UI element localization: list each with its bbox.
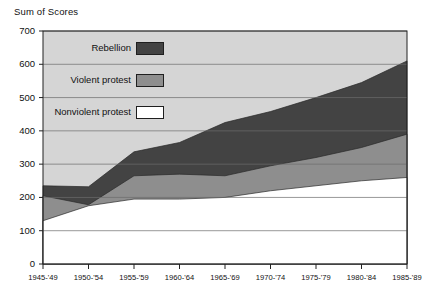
area-chart: Sum of Scores 0100200300400500600700 194… (0, 0, 425, 302)
y-axis-tick-label: 500 (5, 92, 35, 103)
legend-item[interactable]: Rebellion (0, 41, 131, 57)
x-axis-tick-label: 1960-'64 (165, 273, 194, 282)
legend-swatch (136, 106, 164, 119)
legend-swatch (136, 74, 164, 87)
y-axis-tick-label: 300 (5, 158, 35, 169)
y-axis-tick-label: 600 (5, 58, 35, 69)
y-axis-tick-label: 0 (5, 258, 35, 269)
x-axis-tick-label: 1980-'84 (347, 273, 376, 282)
x-axis-tick-label: 1970-'74 (256, 273, 285, 282)
legend-item[interactable]: Violent protest (0, 73, 131, 89)
x-axis-tick-label: 1945-'49 (28, 273, 57, 282)
x-axis-tick-label: 1985-'89 (392, 273, 421, 282)
y-axis-tick-label: 200 (5, 191, 35, 202)
x-axis-tick-label: 1965-'69 (210, 273, 239, 282)
x-axis-tick-label: 1950-'54 (74, 273, 103, 282)
legend-item-label: Rebellion (91, 42, 131, 53)
y-axis-tick-label: 400 (5, 125, 35, 136)
y-axis-tick-label: 100 (5, 225, 35, 236)
legend-swatch (136, 42, 164, 55)
legend-item-label: Nonviolent protest (54, 106, 131, 117)
x-axis-tick-label: 1955-'59 (119, 273, 148, 282)
legend-item[interactable]: Nonviolent protest (0, 105, 131, 121)
y-axis-tick-label: 700 (5, 25, 35, 36)
x-axis-tick-label: 1975-'79 (301, 273, 330, 282)
legend-item-label: Violent protest (70, 74, 131, 85)
